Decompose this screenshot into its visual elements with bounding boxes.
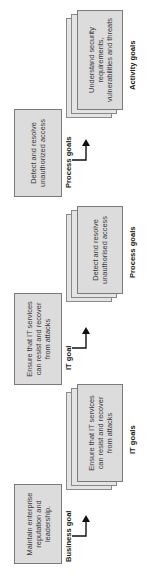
arrow-head (82, 139, 90, 146)
goal-cascade-diagram: Maintain enterprise reputation and leade… (0, 0, 152, 584)
activity-goals-label: Activity goals (128, 41, 137, 90)
business-to-it-arrow (70, 514, 94, 544)
arrow-line (72, 334, 86, 348)
process-goals-stack-text: Detect and resolve unauthorised access (91, 211, 109, 289)
it-goals-stack-text: Ensure that IT services can resist and r… (87, 389, 114, 477)
it-goals-stack-front: Ensure that IT services can resist and r… (77, 384, 123, 482)
arrow-line (72, 146, 86, 160)
business-goal-text: Maintain enterprise reputation and leade… (25, 489, 52, 559)
process-goals-stack-front: Detect and resolve unauthorised access (77, 206, 123, 294)
it-to-process-arrow (70, 326, 94, 356)
process-goals-stack-label: Process goals (128, 227, 137, 279)
business-goal-box: Maintain enterprise reputation and leade… (14, 484, 62, 564)
process-goal-box: Detect and resolve unauthorized access (14, 109, 62, 197)
arrow-line (72, 522, 86, 536)
process-goal-text: Detect and resolve unauthorized access (29, 114, 47, 192)
it-goal-text: Ensure that IT services can resist and r… (25, 298, 52, 380)
activity-goals-stack-front: Understand security requirements, vulner… (77, 10, 123, 110)
it-goal-box: Ensure that IT services can resist and r… (14, 293, 62, 385)
arrow-head (82, 327, 90, 334)
it-goals-label: IT goals (128, 425, 137, 454)
arrow-head (82, 515, 90, 522)
process-to-activity-arrow (70, 138, 94, 168)
activity-goals-stack-text: Understand security requirements, vulner… (87, 15, 114, 105)
